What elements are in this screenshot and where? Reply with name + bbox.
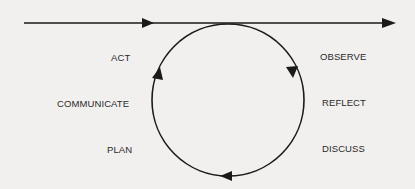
cycle-circle — [152, 24, 304, 176]
label-plan: PLAN — [107, 144, 132, 155]
label-communicate: COMMUNICATE — [57, 98, 129, 109]
timeline-arrow-left-icon — [142, 18, 154, 28]
label-observe: OBSERVE — [320, 51, 366, 62]
timeline-arrow-end-icon — [382, 18, 396, 28]
label-reflect: REFLECT — [322, 97, 366, 108]
cycle-arrow-bottom-icon — [220, 171, 232, 181]
label-act: ACT — [111, 52, 130, 63]
cycle-arrow-left-icon — [152, 67, 163, 80]
label-discuss: DISCUSS — [322, 143, 365, 154]
cycle-arrow-right-icon — [286, 66, 298, 78]
action-research-cycle-diagram: ACT COMMUNICATE PLAN OBSERVE REFLECT DIS… — [0, 0, 415, 189]
cycle-graphic — [0, 0, 415, 189]
